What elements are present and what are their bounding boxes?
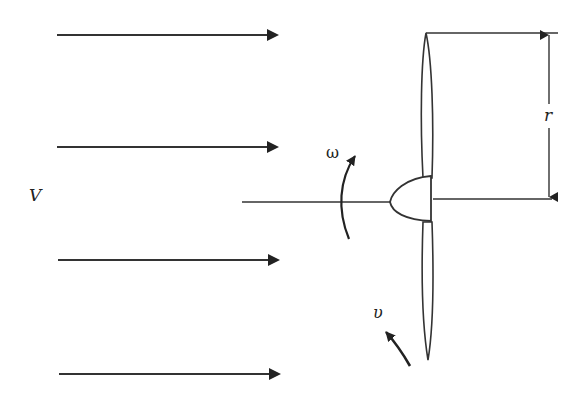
- hub: [390, 176, 431, 221]
- angular-velocity-label: ω: [326, 143, 339, 162]
- blade-velocity-arrow: [386, 332, 410, 366]
- upper-blade: [421, 33, 432, 178]
- wind-arrows: [57, 35, 279, 374]
- lower-blade: [422, 222, 433, 360]
- wind-speed-label: V: [29, 185, 43, 205]
- radius-label: r: [544, 105, 553, 125]
- wind-turbine-diagram: V ω υ r: [0, 0, 582, 397]
- blade-velocity-label: υ: [373, 303, 383, 322]
- omega-rotation-arrow: [341, 156, 355, 239]
